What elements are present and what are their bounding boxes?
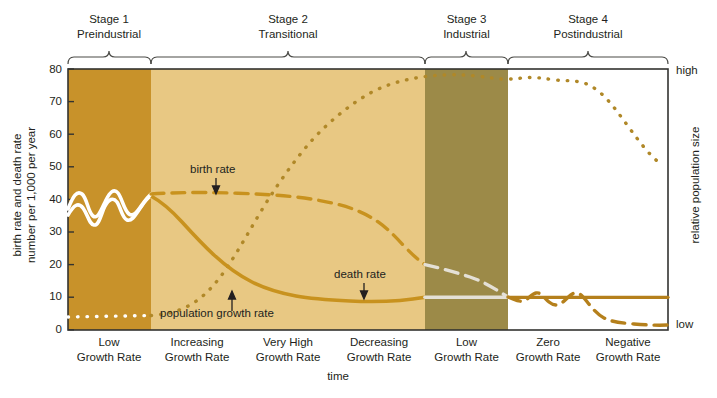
phase-label-2-line2: Growth Rate (151, 350, 243, 365)
death-rate-annotation: death rate (334, 268, 386, 280)
stage-2-bracket (151, 51, 425, 64)
phase-label-7-line1: Negative (588, 335, 668, 350)
phase-label-1: Low Growth Rate (66, 335, 152, 364)
phase-label-2-line1: Increasing (151, 335, 243, 350)
phase-label-6-line1: Zero (508, 335, 588, 350)
phase-label-5-line2: Growth Rate (425, 350, 508, 365)
phase-label-5: Low Growth Rate (425, 335, 508, 364)
phase-label-6-line2: Growth Rate (508, 350, 588, 365)
stage-brackets (68, 51, 668, 64)
phase-label-4-line2: Growth Rate (333, 350, 425, 365)
phase-label-4-line1: Decreasing (333, 335, 425, 350)
phase-label-6: Zero Growth Rate (508, 335, 588, 364)
phase-label-7: Negative Growth Rate (588, 335, 668, 364)
phase-label-3-line1: Very High (243, 335, 333, 350)
stage-2-band (151, 69, 425, 330)
stage-4-band (508, 69, 668, 330)
phase-label-3: Very High Growth Rate (243, 335, 333, 364)
phase-label-2: Increasing Growth Rate (151, 335, 243, 364)
phase-label-7-line2: Growth Rate (588, 350, 668, 365)
stage-4-bracket (508, 51, 668, 64)
stage-1-bracket (68, 51, 151, 64)
stage-3-bracket (425, 51, 508, 64)
birth-rate-annotation: birth rate (190, 163, 235, 175)
demographic-transition-chart: Stage 1 Preindustrial Stage 2 Transition… (0, 0, 717, 398)
phase-label-3-line2: Growth Rate (243, 350, 333, 365)
phase-label-1-line1: Low (66, 335, 152, 350)
phase-label-1-line2: Growth Rate (66, 350, 152, 365)
phase-label-4: Decreasing Growth Rate (333, 335, 425, 364)
x-axis-title: time (308, 370, 368, 382)
phase-label-5-line1: Low (425, 335, 508, 350)
population-growth-rate-annotation: population growth rate (160, 307, 274, 319)
